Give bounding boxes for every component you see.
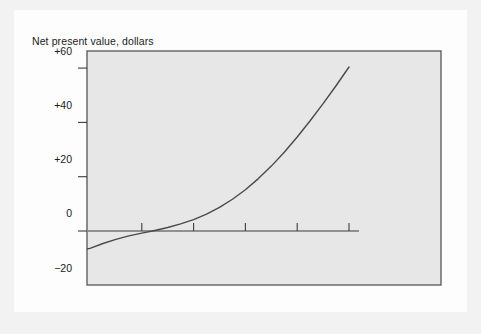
figure-card: Net present value, dollars Discount rate… [14, 10, 467, 312]
plot-area [14, 10, 467, 312]
npv-discount-rate-chart: Net present value, dollars Discount rate… [14, 10, 467, 312]
plot-background [87, 51, 441, 285]
y-axis-ticks [78, 68, 87, 231]
